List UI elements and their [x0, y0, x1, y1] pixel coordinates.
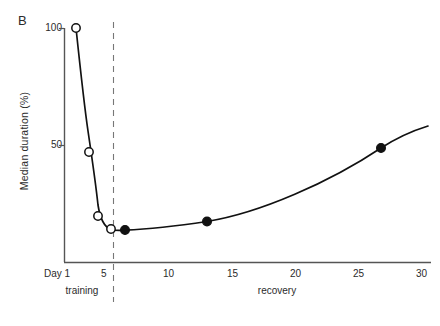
- data-point-open-circle: [72, 24, 80, 32]
- data-point-filled-circle: [203, 217, 212, 226]
- data-point-open-circle: [94, 212, 102, 220]
- figure-panel-b: B Median duration (%) 100 50 Day 1 5 10 …: [0, 0, 440, 326]
- data-point-open-circle: [85, 148, 93, 156]
- data-point-filled-circle: [377, 144, 386, 153]
- data-curve: [76, 28, 428, 231]
- data-point-filled-circle: [121, 226, 130, 235]
- data-point-open-circle: [107, 225, 115, 233]
- plot-area: [0, 0, 440, 326]
